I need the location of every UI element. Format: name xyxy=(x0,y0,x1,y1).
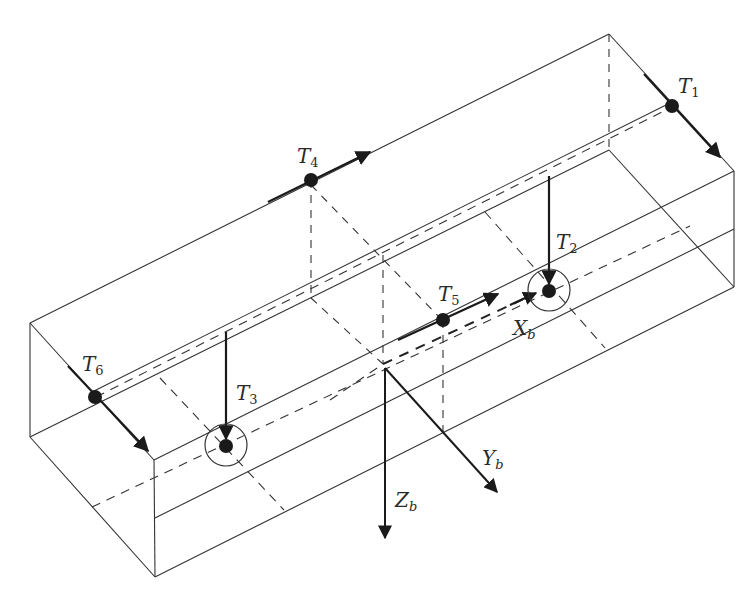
label-t1: T1 xyxy=(678,76,700,99)
label-xb: Xb xyxy=(513,318,536,341)
hidden-lines xyxy=(92,34,690,510)
label-t5: T5 xyxy=(438,284,460,307)
label-t6: T6 xyxy=(82,354,104,377)
box-edges xyxy=(30,34,734,577)
label-zb: Zb xyxy=(395,490,417,513)
thruster-t4 xyxy=(268,152,370,202)
label-t3: T3 xyxy=(236,383,258,406)
label-yb: Yb xyxy=(482,448,504,471)
y-axis-arrow xyxy=(385,368,497,492)
box-diagram-svg xyxy=(0,0,755,601)
label-t2: T2 xyxy=(556,232,578,255)
label-t4: T4 xyxy=(297,146,319,169)
thruster-diagram: T1 T2 T3 T4 T5 T6 Xb Yb Zb xyxy=(0,0,755,601)
thruster-t6 xyxy=(68,366,148,451)
